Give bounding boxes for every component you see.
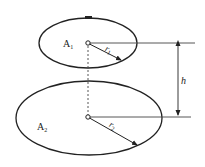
label-a2: A2 [37,121,47,133]
label-a1: A1 [63,38,73,50]
top-marker [85,16,92,19]
label-h: h [181,75,186,86]
label-r2: r2 [107,119,118,132]
two-surfaces-diagram: A1 A2 r1 r2 h [0,0,205,167]
label-r1: r1 [103,43,114,56]
